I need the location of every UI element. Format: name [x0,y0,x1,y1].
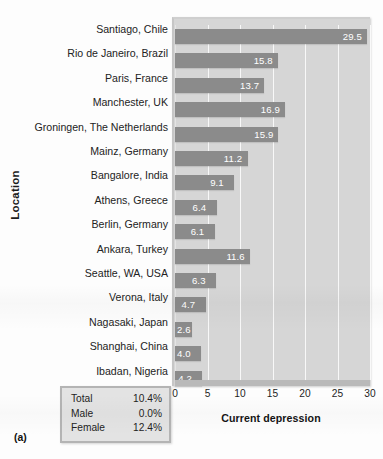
stat-value: 0.0% [139,407,162,422]
stat-key: Total [71,392,93,407]
bar-value-label: 16.9 [261,102,280,117]
bar-row: 9.1 [175,171,370,195]
bar-row: 16.9 [175,98,370,122]
bar-value-label: 11.6 [226,249,244,264]
stat-row: Total10.4% [71,392,162,407]
bar-value-label: 4.7 [182,297,196,312]
bar-row: 2.6 [175,318,370,342]
category-label: Groningen, The Netherlands [35,119,169,135]
bar-value-label: 11.2 [224,151,242,166]
category-label: Bangalore, India [91,167,168,183]
stat-value: 10.4% [133,392,162,407]
bar [175,175,234,190]
stat-row: Male0.0% [71,407,162,422]
stats-legend-box: Total10.4%Male0.0%Female12.4% [60,386,171,443]
bar-row: 15.9 [175,123,370,147]
bar-row: 6.4 [175,196,370,220]
stat-value: 12.4% [133,421,162,436]
bar-row: 4.0 [175,342,370,366]
category-label: Santiago, Chile [96,21,168,37]
category-label-column: Santiago, ChileRio de Janeiro, BrazilPar… [24,18,172,386]
y-axis-title: Location [4,0,26,390]
y-axis-title-text: Location [9,170,21,220]
category-label: Nagasaki, Japan [89,314,168,330]
category-label: Verona, Italy [109,289,168,305]
bar-row: 6.3 [175,269,370,293]
category-label: Athens, Greece [94,192,168,208]
category-label: Seattle, WA, USA [85,265,168,281]
category-label: Ankara, Turkey [97,241,168,257]
bar-row: 13.7 [175,74,370,98]
bar-value-label: 13.7 [240,78,259,93]
bar-value-label: 2.6 [177,322,191,337]
bar-value-label: 6.3 [192,273,206,288]
bar-row: 6.1 [175,220,370,244]
bar-value-label: 6.1 [191,224,205,239]
bar-value-label: 4.0 [177,346,191,361]
bar-row: 29.5 [175,25,370,49]
stat-key: Female [71,421,105,436]
bar-row: 15.8 [175,49,370,73]
panel-caption: (a) [14,432,27,443]
bar [175,29,367,44]
bar-row: 11.6 [175,245,370,269]
bar-value-label: 29.5 [343,29,362,44]
gridline-30 [370,25,371,380]
category-label: Manchester, UK [93,94,168,110]
category-label: Berlin, Germany [91,216,168,232]
bar-row: 11.2 [175,147,370,171]
category-label: Rio de Janeiro, Brazil [67,45,168,61]
category-label: Mainz, Germany [90,143,168,159]
stat-key: Male [71,407,93,422]
axis-band [175,380,370,386]
bar-row: 4.7 [175,293,370,317]
plot-area: 29.515.813.716.915.911.29.16.46.111.66.3… [172,17,370,386]
figure-panel-a: Location Santiago, ChileRio de Janeiro, … [0,0,383,459]
category-label: Paris, France [105,70,168,86]
x-axis-title: Current depression [172,412,370,424]
bar-value-label: 15.9 [254,127,273,142]
bar-row: 4.2 [175,367,370,391]
bar-value-label: 6.4 [193,200,207,215]
bars-container: 29.515.813.716.915.911.29.16.46.111.66.3… [175,25,370,380]
category-label: Shanghai, China [90,338,168,354]
stat-row: Female12.4% [71,421,162,436]
bar-value-label: 9.1 [210,175,224,190]
bar-value-label: 15.8 [254,53,273,68]
category-label: Ibadan, Nigeria [96,363,168,379]
